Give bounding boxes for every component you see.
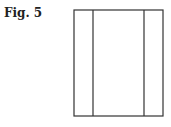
rectangle-diagram bbox=[0, 0, 171, 127]
outer-rectangle bbox=[74, 10, 163, 116]
